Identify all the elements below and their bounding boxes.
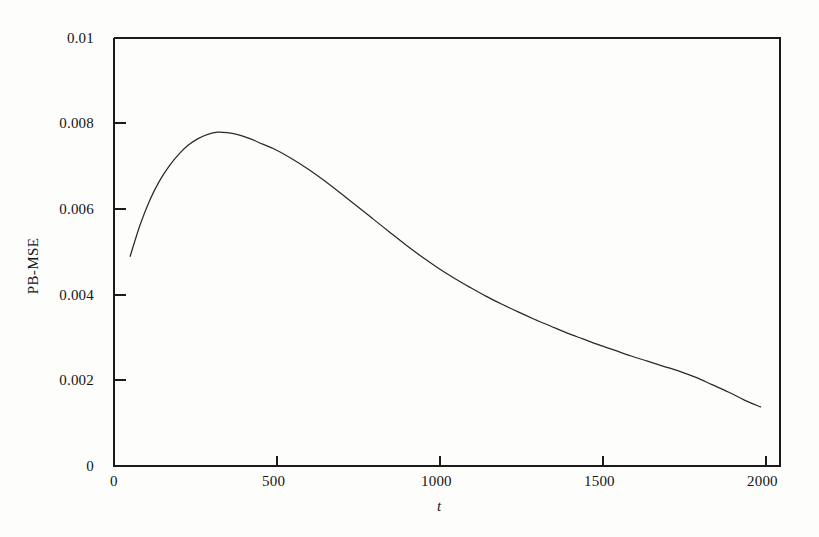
y-axis-title: PB-MSE <box>25 238 41 295</box>
y-tick-label-0.01: 0.01 <box>67 30 94 47</box>
y-tick-label-0.006: 0.006 <box>59 201 94 218</box>
x-tick-label-0: 0 <box>110 473 118 490</box>
x-tick-label-1000: 1000 <box>421 473 452 490</box>
figure-container: PB-MSE 0.01 0.008 0.006 0.004 0.002 0 0 … <box>0 0 819 537</box>
plot-svg: PB-MSE <box>0 0 819 537</box>
x-tick-label-2000: 2000 <box>747 473 778 490</box>
axis-frame <box>114 38 780 466</box>
y-tick-marks <box>114 38 126 466</box>
y-tick-label-0.004: 0.004 <box>59 287 94 304</box>
y-tick-label-0.002: 0.002 <box>59 372 94 389</box>
x-tick-label-1500: 1500 <box>584 473 615 490</box>
x-axis-title: t <box>437 498 441 515</box>
y-tick-label-0: 0 <box>86 458 94 475</box>
x-tick-marks <box>114 456 766 466</box>
data-curve-pb-mse <box>130 132 760 407</box>
y-tick-label-0.008: 0.008 <box>59 115 94 132</box>
x-tick-label-500: 500 <box>262 473 285 490</box>
